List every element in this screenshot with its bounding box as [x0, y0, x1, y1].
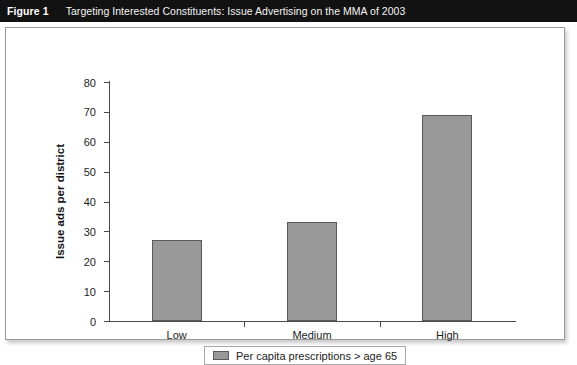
y-axis-tick-label: 80	[84, 77, 96, 89]
y-axis-tick: 60	[104, 142, 109, 143]
x-axis-label-medium: Medium	[292, 329, 331, 341]
legend-label: Per capita prescriptions > age 65	[236, 350, 397, 362]
y-axis-tick: 20	[104, 261, 109, 262]
legend-swatch-icon	[213, 351, 229, 360]
y-axis-tick-label: 60	[84, 136, 96, 148]
y-axis-tick-label: 70	[84, 106, 96, 118]
x-axis-tick	[380, 322, 381, 327]
y-axis-tick-label: 30	[84, 226, 96, 238]
y-axis-tick: 10	[104, 291, 109, 292]
y-axis-tick-label: 50	[84, 166, 96, 178]
chart-legend: Per capita prescriptions > age 65	[204, 346, 406, 365]
bar-medium	[287, 222, 337, 321]
bar-high	[422, 115, 472, 321]
y-axis-line	[109, 81, 110, 322]
y-axis-tick-label: 20	[84, 256, 96, 268]
y-axis-tick-label: 40	[84, 196, 96, 208]
y-axis-tick-label: 0	[90, 316, 96, 328]
y-axis-tick-label: 10	[84, 286, 96, 298]
figure-number: Figure 1	[7, 5, 49, 17]
x-axis-label-high: High	[436, 329, 459, 341]
y-axis-tick: 70	[104, 112, 109, 113]
y-axis-tick: 50	[104, 172, 109, 173]
y-axis-tick: 30	[104, 231, 109, 232]
chart-panel: Issue ads per district 01020304050607080…	[5, 27, 565, 340]
x-axis-tick	[244, 322, 245, 327]
bar-low	[152, 240, 202, 321]
figure-title: Targeting Interested Constituents: Issue…	[66, 5, 406, 17]
y-axis-tick: 40	[104, 202, 109, 203]
x-axis-line	[109, 321, 516, 322]
y-axis-tick: 80	[104, 82, 109, 83]
y-axis-tick: 0	[104, 321, 109, 322]
y-axis-title: Issue ads per district	[52, 82, 68, 321]
figure-header-band: Figure 1 Targeting Interested Constituen…	[0, 0, 577, 22]
x-axis-label-low: Low	[167, 329, 187, 341]
